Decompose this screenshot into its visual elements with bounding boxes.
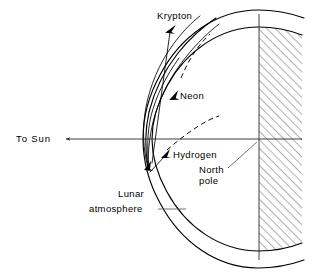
hydrogen-arrowhead — [161, 149, 171, 158]
dashed-trajectory-lower — [167, 116, 219, 150]
label-lunar-atmosphere-line1: Lunar — [118, 188, 144, 199]
label-neon: Neon — [180, 90, 204, 101]
label-to-sun: To Sun — [16, 133, 51, 144]
label-lunar-atmosphere-line2: atmosphere — [89, 203, 143, 214]
label-hydrogen: Hydrogen — [173, 149, 217, 160]
label-north-pole-line1: North — [199, 164, 224, 175]
lunar-atmosphere-diagram: Krypton Neon Hydrogen To Sun North pole … — [0, 0, 324, 275]
krypton-leader-line — [152, 32, 170, 163]
north-pole-leader-line — [228, 142, 257, 168]
hatched-moon-interior — [255, 20, 305, 260]
label-north-pole-line2: pole — [199, 175, 218, 186]
label-krypton: Krypton — [157, 10, 192, 21]
krypton-arrowhead — [165, 23, 177, 35]
diagram-canvas: Krypton Neon Hydrogen To Sun North pole … — [0, 0, 324, 275]
